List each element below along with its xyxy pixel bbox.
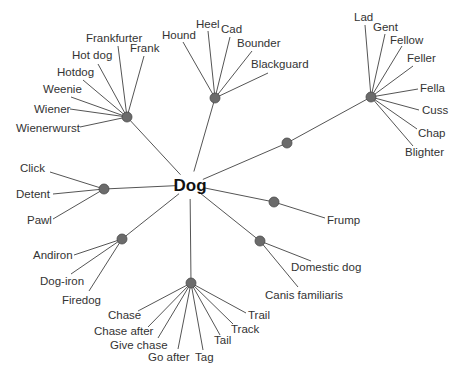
edge-sausage-leaf — [127, 56, 144, 117]
leaf-label: Gent — [373, 21, 399, 33]
leaf-label: Feller — [407, 52, 436, 64]
leaf-label: Blackguard — [251, 58, 309, 70]
leaf-label: Detent — [16, 188, 51, 200]
edge-chase-leaf — [148, 283, 191, 327]
leaf-label: Chase after — [94, 325, 154, 337]
edge-center-to-domestic-hub — [201, 194, 260, 241]
leaf-label: Fella — [420, 82, 446, 94]
edge-catch-leaf — [50, 172, 104, 189]
leaf-label: Chase — [108, 309, 141, 321]
scoundrel-hub-node — [210, 93, 220, 103]
edge-fellow-leaf — [365, 25, 371, 97]
leaf-label: Click — [20, 162, 45, 174]
hub-nodes — [99, 92, 376, 288]
leaf-label: Hot dog — [72, 49, 112, 61]
leaf-label: Trail — [248, 309, 270, 321]
edge-sausage-leaf — [71, 97, 127, 117]
edge-fellow-leaf — [371, 89, 418, 97]
fellow-hub-node — [366, 92, 376, 102]
dog-synonym-diagram: FrankfurterFrankHot dogHotdogWeenieWiene… — [0, 0, 458, 373]
edge-center-to-frump-hub — [204, 188, 274, 202]
leaf-label: Lad — [354, 11, 373, 23]
leaf-label: Chap — [418, 127, 446, 139]
domestic-hub-node — [255, 236, 265, 246]
frump-hub-node — [269, 197, 279, 207]
leaf-label: Cuss — [422, 104, 448, 116]
edge-andiron-leaf — [71, 239, 122, 274]
leaf-label: Frump — [327, 214, 360, 226]
edge-center-to-catch-hub — [104, 186, 176, 189]
leaf-label: Heel — [196, 18, 220, 30]
edge-center-to-chase-hub — [190, 199, 191, 283]
edge-mid-to-fellow-hub — [287, 97, 371, 143]
leaf-label: Domestic dog — [291, 261, 361, 273]
leaf-label: Tail — [214, 334, 231, 346]
edge-center-to-scoundrel-hub — [194, 98, 215, 172]
leaf-label: Hound — [162, 29, 196, 41]
edge-sausage-leaf — [98, 64, 127, 117]
leaf-labels: FrankfurterFrankHot dogHotdogWeenieWiene… — [16, 11, 448, 363]
edge-center-to-fellow-mid — [203, 143, 287, 179]
center-node-label: Dog — [173, 176, 206, 195]
leaf-label: Frank — [130, 42, 160, 54]
leaf-label: Pawl — [27, 214, 52, 226]
edge-fellow-leaf — [371, 46, 402, 97]
edge-fellow-leaf — [371, 34, 385, 97]
edge-andiron-leaf — [89, 239, 122, 291]
leaf-label: Track — [231, 323, 260, 335]
leaf-label: Blighter — [405, 146, 444, 158]
edge-scoundrel-leaf — [215, 73, 268, 98]
andiron-hub-node — [117, 234, 127, 244]
leaf-label: Dog-iron — [40, 275, 84, 287]
chase-hub-node — [186, 278, 196, 288]
leaf-label: Go after — [148, 351, 190, 363]
leaf-label: Bounder — [237, 37, 281, 49]
leaf-label: Firedog — [62, 294, 101, 306]
edge-sausage-leaf — [118, 46, 127, 117]
sausage-hub-node — [122, 112, 132, 122]
edge-andiron-leaf — [74, 239, 122, 255]
leaf-label: Give chase — [110, 339, 168, 351]
leaf-label: Canis familiaris — [265, 289, 343, 301]
leaf-label: Wiener — [34, 103, 71, 115]
edge-frump-leaf — [274, 202, 325, 218]
catch-hub-node — [99, 184, 109, 194]
edge-center-to-andiron-hub — [122, 194, 179, 239]
edge-center-to-sausage-hub — [127, 117, 180, 175]
leaf-label: Fellow — [390, 34, 424, 46]
leaf-label: Tag — [195, 351, 214, 363]
leaf-label: Hotdog — [57, 66, 94, 78]
fellow-mid-node — [282, 138, 292, 148]
edge-sausage-leaf — [80, 117, 127, 127]
leaf-label: Cad — [221, 23, 242, 35]
leaf-label: Wienerwurst — [16, 122, 81, 134]
edge-fellow-leaf — [371, 97, 419, 110]
leaf-label: Weenie — [43, 83, 82, 95]
leaf-label: Andiron — [33, 249, 73, 261]
